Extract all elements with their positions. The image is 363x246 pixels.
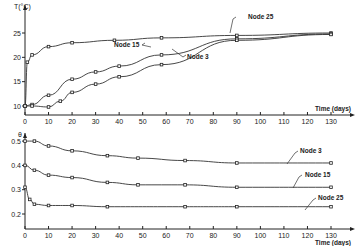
chart-canvas: T(°C)10152025010203040506070809010011012… <box>0 0 363 246</box>
data-point-marker <box>118 65 121 68</box>
data-point-marker <box>33 169 36 172</box>
data-point-marker <box>236 205 239 208</box>
svg-text:0.4: 0.4 <box>11 162 21 169</box>
series-label: Node 3 <box>187 53 209 60</box>
data-point-marker <box>24 164 27 167</box>
series-label: Node 15 <box>305 171 331 178</box>
data-point-marker <box>236 186 239 189</box>
data-point-marker <box>26 61 29 64</box>
data-point-marker <box>137 157 140 160</box>
svg-text:25: 25 <box>13 30 21 37</box>
svg-text:60: 60 <box>162 118 170 125</box>
svg-text:0.2: 0.2 <box>11 211 21 218</box>
data-point-marker <box>106 181 109 184</box>
data-point-marker <box>106 154 109 157</box>
svg-text:110: 110 <box>278 118 289 125</box>
data-point-marker <box>184 184 187 187</box>
data-point-marker <box>106 205 109 208</box>
data-point-marker <box>71 176 74 179</box>
data-point-marker <box>330 162 333 165</box>
data-point-marker <box>184 205 187 208</box>
svg-text:40: 40 <box>115 118 123 125</box>
data-point-marker <box>118 76 121 79</box>
data-point-marker <box>330 33 333 36</box>
data-point-marker <box>236 162 239 165</box>
svg-text:100: 100 <box>255 118 267 125</box>
svg-text:40: 40 <box>115 232 123 239</box>
data-point-marker <box>184 159 187 162</box>
svg-text:60: 60 <box>162 232 170 239</box>
svg-text:50: 50 <box>139 118 147 125</box>
data-point-marker <box>31 105 34 108</box>
svg-text:0: 0 <box>23 118 27 125</box>
data-point-marker <box>71 150 74 153</box>
svg-text:90: 90 <box>233 118 241 125</box>
svg-text:10: 10 <box>45 232 53 239</box>
svg-text:20: 20 <box>13 54 21 61</box>
svg-text:50: 50 <box>139 232 147 239</box>
series-line <box>25 187 331 206</box>
data-point-marker <box>137 184 140 187</box>
x-axis-label: Time (days) <box>315 105 351 113</box>
data-point-marker <box>47 106 50 109</box>
data-point-marker <box>47 145 50 148</box>
svg-text:120: 120 <box>302 118 314 125</box>
data-point-marker <box>71 204 74 207</box>
data-point-marker <box>160 37 163 40</box>
moisture-chart: θ0.20.30.40.5010203040506070809010011012… <box>11 131 355 246</box>
series-label: Node 25 <box>318 194 344 201</box>
data-point-marker <box>236 39 239 42</box>
svg-text:130: 130 <box>325 232 337 239</box>
svg-text:30: 30 <box>92 118 100 125</box>
data-point-marker <box>24 140 27 143</box>
svg-text:10: 10 <box>13 103 21 110</box>
data-point-marker <box>71 91 74 94</box>
data-point-marker <box>160 63 163 66</box>
data-point-marker <box>330 186 333 189</box>
data-point-marker <box>47 45 50 48</box>
data-point-marker <box>24 105 27 108</box>
svg-text:20: 20 <box>68 118 76 125</box>
svg-text:30: 30 <box>92 232 100 239</box>
series-label: Node 3 <box>300 147 322 154</box>
data-point-marker <box>71 78 74 81</box>
data-point-marker <box>47 94 50 97</box>
chart-figure: T(°C)10152025010203040506070809010011012… <box>0 0 363 246</box>
data-point-marker <box>47 174 50 177</box>
data-point-marker <box>71 41 74 44</box>
series-label: Node 15 <box>114 41 140 48</box>
data-point-marker <box>160 54 163 57</box>
svg-text:80: 80 <box>209 232 217 239</box>
svg-text:100: 100 <box>255 232 267 239</box>
data-point-marker <box>59 100 62 103</box>
data-point-marker <box>33 140 36 143</box>
svg-text:0.5: 0.5 <box>11 138 21 145</box>
data-point-marker <box>94 71 97 74</box>
data-point-marker <box>94 83 97 86</box>
svg-text:120: 120 <box>302 232 314 239</box>
data-point-marker <box>236 34 239 37</box>
temperature-chart: T(°C)10152025010203040506070809010011012… <box>13 3 355 125</box>
svg-text:90: 90 <box>233 232 241 239</box>
svg-text:10: 10 <box>45 118 53 125</box>
data-point-marker <box>31 54 34 57</box>
svg-text:110: 110 <box>278 232 289 239</box>
svg-text:15: 15 <box>13 78 21 85</box>
svg-text:130: 130 <box>325 118 337 125</box>
y-axis-label: T(°C) <box>14 3 31 11</box>
series-line <box>25 34 331 107</box>
svg-text:70: 70 <box>186 118 194 125</box>
data-point-marker <box>33 203 36 206</box>
svg-text:70: 70 <box>186 232 194 239</box>
series-line <box>25 34 331 106</box>
data-point-marker <box>47 204 50 207</box>
svg-text:20: 20 <box>68 232 76 239</box>
x-axis-label: Time (days) <box>315 239 351 246</box>
data-point-marker <box>28 198 31 201</box>
data-point-marker <box>24 186 27 189</box>
svg-text:80: 80 <box>209 118 217 125</box>
svg-text:0.3: 0.3 <box>11 186 21 193</box>
series-label: Node 25 <box>248 13 274 20</box>
data-point-marker <box>330 205 333 208</box>
svg-text:0: 0 <box>23 232 27 239</box>
